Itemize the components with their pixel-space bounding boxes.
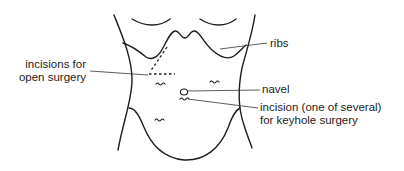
label-keyhole: incision (one of several) for keyhole su… [260, 101, 381, 127]
chest-curve-right [200, 19, 236, 25]
chest-curve-left [132, 19, 170, 25]
label-ribs: ribs [270, 37, 289, 50]
keyhole-incision-1 [156, 83, 165, 85]
keyhole-incision-4 [155, 119, 164, 121]
label-keyhole-line2: for keyhole surgery [260, 114, 381, 127]
torso-left-outline [114, 15, 132, 150]
navel-marker [180, 89, 187, 95]
rib-cage-line [123, 31, 246, 59]
lower-abdomen-curve [129, 108, 240, 160]
leader-navel [188, 90, 260, 91]
label-open-surgery-line1: incisions for [19, 58, 86, 71]
label-open-surgery-line2: open surgery [19, 71, 86, 84]
leader-open-surgery [90, 71, 148, 75]
keyhole-incision-3 [180, 98, 189, 100]
abdomen-diagram [0, 0, 404, 171]
keyhole-incision-2 [210, 81, 219, 83]
label-keyhole-line1: incision (one of several) [260, 101, 381, 114]
leader-keyhole [188, 99, 258, 108]
open-surgery-incision-diagonal [150, 47, 167, 72]
label-open-surgery: incisions for open surgery [19, 58, 86, 84]
label-navel: navel [262, 83, 290, 96]
torso-right-outline [239, 15, 255, 148]
